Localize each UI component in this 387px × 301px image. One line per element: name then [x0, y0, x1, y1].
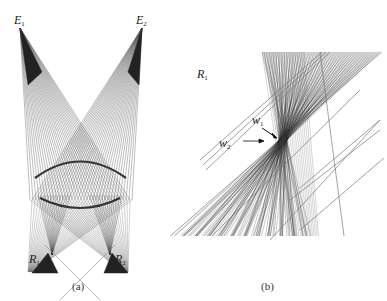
receiver-1-label: R1 [29, 253, 40, 267]
waist-1-label: w1 [252, 114, 264, 128]
receiver-1-label-b: R1 [197, 68, 208, 82]
waist-2-label: w2 [219, 137, 231, 151]
ray-diagram-figure [0, 0, 387, 301]
emitter-2-label: E2 [136, 14, 147, 28]
caption-a: (a) [72, 280, 84, 292]
receiver-2-label: R2 [115, 253, 126, 267]
emitter-1-label: E1 [14, 14, 25, 28]
caption-b: (b) [261, 280, 274, 292]
